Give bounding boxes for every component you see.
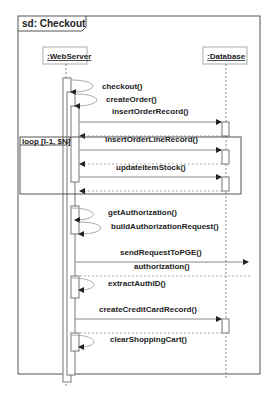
svg-text:extractAuthID(): extractAuthID() (108, 279, 166, 288)
svg-text:sendRequestToPGE(): sendRequestToPGE() (120, 248, 202, 257)
activation-db-3 (222, 177, 229, 191)
svg-text:clearShoppingCart(): clearShoppingCart() (110, 335, 187, 344)
svg-text:insertOrderLineRecord(): insertOrderLineRecord() (105, 135, 198, 144)
msg-build-authorization-request[interactable] (79, 222, 101, 234)
msg-checkout[interactable] (71, 80, 93, 92)
svg-text:checkout(): checkout() (102, 82, 143, 91)
svg-text:authorization(): authorization() (134, 262, 190, 271)
lifeline-label-database: :Database (207, 52, 246, 61)
svg-text:updateItemStock(): updateItemStock() (116, 163, 186, 172)
frame-title: sd: Checkout (22, 18, 86, 29)
activation-extract (71, 276, 79, 298)
activation-webserver-inner (71, 106, 79, 182)
svg-text:insertOrderRecord(): insertOrderRecord() (112, 107, 189, 116)
svg-text:getAuthorization(): getAuthorization() (108, 208, 177, 217)
activation-db-4 (222, 319, 229, 333)
svg-text:createCreditCardRecord(): createCreditCardRecord() (99, 305, 197, 314)
svg-text:createOrder(): createOrder() (106, 95, 157, 104)
sequence-diagram: sd: Checkout :WebServer :Database checko… (0, 0, 275, 413)
svg-text:buildAuthorizationRequest(): buildAuthorizationRequest() (111, 222, 219, 231)
activation-db-2 (222, 150, 229, 164)
loop-label: loop [I-1, $N] (22, 137, 71, 146)
activation-db-1 (222, 122, 229, 136)
lifeline-label-webserver: :WebServer (47, 52, 91, 61)
msg-create-order[interactable] (75, 94, 97, 106)
